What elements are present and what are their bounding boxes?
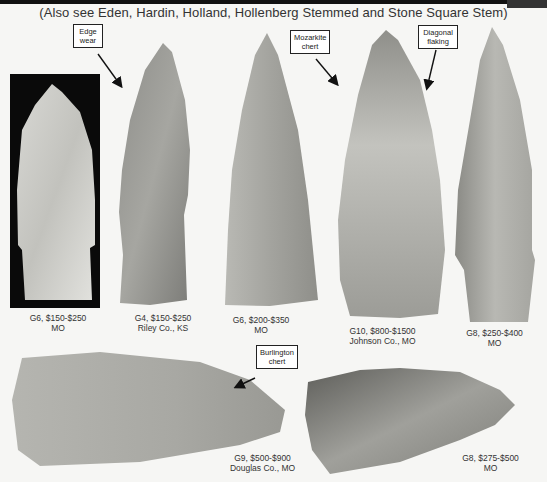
callout-line: Mozarkite — [294, 33, 326, 42]
artifact-4-point — [338, 30, 445, 318]
caption-location: Riley Co., KS — [123, 323, 203, 333]
edge-wear-arrow — [98, 54, 121, 86]
callout-line: wear — [77, 36, 99, 45]
callout-line: chert — [260, 357, 294, 366]
callout-line: Burlington — [260, 348, 294, 357]
artifact-3-caption: G6, $200-$350 MO — [221, 315, 301, 335]
callout-line: chert — [294, 42, 326, 51]
callout-diagonal-flaking: Diagonal flaking — [418, 25, 458, 49]
artifact-illustrations — [0, 0, 547, 482]
caption-location: MO — [448, 463, 533, 473]
callout-edge-wear: Edge wear — [73, 24, 103, 48]
caption-grade: G6, $200-$350 — [221, 315, 301, 325]
caption-location: Johnson Co., MO — [340, 336, 425, 346]
artifact-2-point — [119, 43, 190, 305]
caption-location: MO — [18, 323, 98, 333]
caption-location: MO — [452, 338, 537, 348]
artifact-2-caption: G4, $150-$250 Riley Co., KS — [123, 313, 203, 333]
artifact-6-point — [12, 352, 285, 466]
caption-grade: G6, $150-$250 — [18, 313, 98, 323]
caption-grade: G4, $150-$250 — [123, 313, 203, 323]
mozarkite-chert-arrow — [316, 59, 337, 84]
caption-location: Douglas Co., MO — [220, 463, 305, 473]
caption-grade: G9, $500-$900 — [220, 453, 305, 463]
artifact-5-caption: G8, $250-$400 MO — [452, 328, 537, 348]
callout-line: Diagonal — [422, 28, 454, 37]
diagonal-flaking-arrow — [427, 50, 436, 88]
callout-line: flaking — [422, 37, 454, 46]
artifact-6-caption: G9, $500-$900 Douglas Co., MO — [220, 453, 305, 473]
callout-burlington-chert: Burlington chert — [256, 345, 298, 369]
artifact-1-point — [17, 84, 95, 300]
artifact-1-caption: G6, $150-$250 MO — [18, 313, 98, 333]
artifact-7-caption: G8, $275-$500 MO — [448, 453, 533, 473]
callout-mozarkite-chert: Mozarkite chert — [290, 30, 330, 54]
caption-grade: G8, $275-$500 — [448, 453, 533, 463]
caption-grade: G8, $250-$400 — [452, 328, 537, 338]
caption-location: MO — [221, 325, 301, 335]
callout-line: Edge — [77, 27, 99, 36]
artifact-4-caption: G10, $800-$1500 Johnson Co., MO — [340, 326, 425, 346]
caption-grade: G10, $800-$1500 — [340, 326, 425, 336]
artifact-3-point — [225, 33, 318, 306]
artifact-5-point — [455, 27, 535, 322]
